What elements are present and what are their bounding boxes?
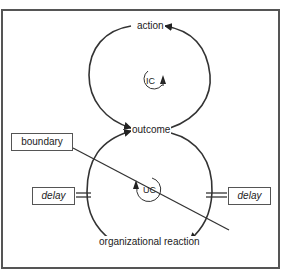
delay-box-left: delay	[32, 187, 75, 205]
arrow-action-to-outcome	[89, 26, 131, 128]
node-outcome: outcome	[131, 124, 171, 136]
delay-box-right: delay	[228, 187, 271, 205]
boundary-box: boundary	[11, 133, 73, 151]
loop-label-uc: UC	[143, 185, 156, 195]
loop-label-ic: IC	[146, 76, 155, 86]
delay-mark-left	[76, 193, 91, 197]
arrow-outcome-to-reaction	[171, 133, 212, 240]
arrow-reaction-to-outcome	[87, 131, 131, 240]
node-action: action	[136, 20, 165, 32]
arrow-outcome-to-action	[165, 26, 210, 128]
node-organizational-reaction: organizational reaction	[99, 236, 200, 248]
delay-mark-right	[206, 193, 227, 197]
